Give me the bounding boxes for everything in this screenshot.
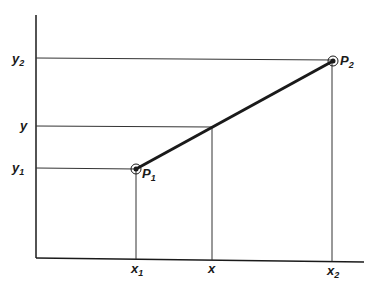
interpolation-diagram: y2 y y1 x1 x x2 P1 P2: [0, 0, 386, 292]
guide-y1: [36, 168, 136, 169]
point-p2: [328, 56, 338, 66]
label-x: x: [207, 261, 216, 276]
label-p2: P2: [340, 53, 354, 70]
label-y1: y1: [11, 160, 24, 177]
guide-y2: [36, 58, 333, 60]
label-p1: P1: [142, 166, 156, 183]
guide-y: [36, 126, 212, 127]
label-y: y: [19, 118, 28, 133]
label-x1: x1: [130, 261, 143, 278]
x-axis: [36, 258, 364, 262]
segment-p1-p2: [136, 61, 333, 169]
label-y2: y2: [11, 51, 24, 68]
label-x2: x2: [326, 263, 339, 280]
